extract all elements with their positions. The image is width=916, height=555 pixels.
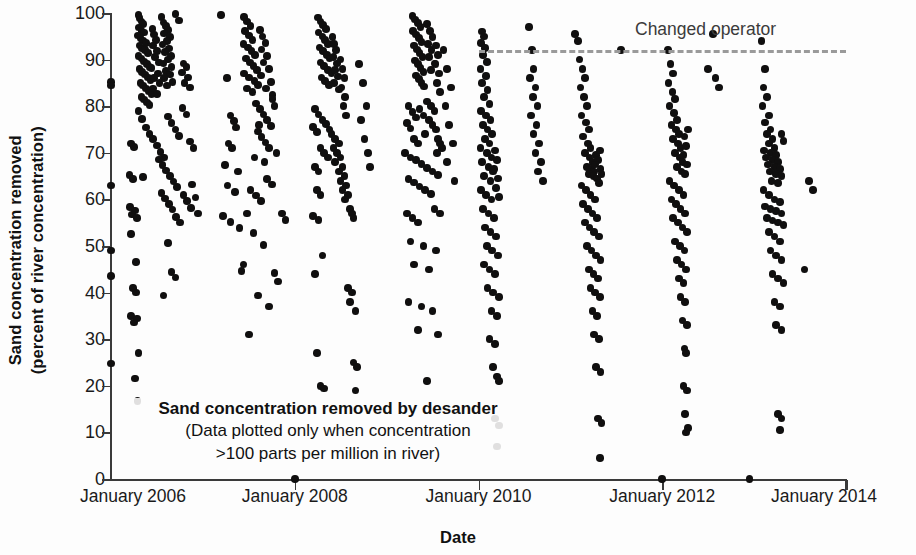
scatter-point xyxy=(774,179,782,187)
scatter-point xyxy=(760,84,768,92)
scatter-point xyxy=(488,130,496,138)
scatter-point xyxy=(778,256,786,264)
scatter-point xyxy=(341,93,349,101)
scatter-point xyxy=(487,116,495,124)
scatter-point xyxy=(595,335,603,343)
scatter-point xyxy=(525,23,533,31)
scatter-point xyxy=(683,228,691,236)
changed-operator-label: Changed operator xyxy=(635,19,776,40)
scatter-point xyxy=(405,298,413,306)
scatter-point xyxy=(683,161,691,169)
scatter-point xyxy=(366,163,374,171)
scatter-point xyxy=(780,279,788,287)
scatter-point xyxy=(352,387,360,395)
scatter-point xyxy=(132,289,140,297)
y-tick-label: 60 xyxy=(61,189,105,210)
scatter-point xyxy=(227,218,235,226)
scatter-point xyxy=(683,387,691,395)
scatter-point xyxy=(534,168,542,176)
scatter-point xyxy=(291,475,299,483)
scatter-point xyxy=(447,84,455,92)
scatter-point xyxy=(680,279,688,287)
scatter-point xyxy=(160,292,168,300)
scatter-point xyxy=(412,114,420,122)
scatter-point xyxy=(245,331,253,339)
scatter-point xyxy=(135,349,143,357)
scatter-point xyxy=(434,331,442,339)
scatter-point xyxy=(596,454,604,462)
scatter-point xyxy=(169,206,177,214)
scatter-point xyxy=(188,181,196,189)
scatter-point xyxy=(780,221,788,229)
scatter-point xyxy=(761,65,769,73)
scatter-point xyxy=(414,219,422,227)
scatter-point xyxy=(594,275,602,283)
scatter-point xyxy=(311,270,319,278)
scatter-point xyxy=(173,183,181,191)
scatter-point xyxy=(682,142,690,150)
scatter-point xyxy=(339,65,347,73)
x-tick-mark xyxy=(479,480,481,490)
scatter-point xyxy=(320,385,328,393)
scatter-point xyxy=(680,151,688,159)
scatter-point xyxy=(593,312,601,320)
scatter-point xyxy=(491,270,499,278)
y-tick-label: 50 xyxy=(61,236,105,257)
y-tick-mark xyxy=(102,13,111,15)
caption-line-3: >100 parts per million in river) xyxy=(118,443,538,465)
scatter-point xyxy=(778,415,786,423)
scatter-point xyxy=(432,60,440,68)
scatter-point xyxy=(257,197,265,205)
scatter-point xyxy=(493,312,501,320)
scatter-point xyxy=(338,84,346,92)
scatter-point xyxy=(681,298,689,306)
scatter-point xyxy=(346,298,354,306)
scatter-point xyxy=(532,84,540,92)
y-tick-label: 70 xyxy=(61,142,105,163)
scatter-point xyxy=(364,149,372,157)
scatter-point xyxy=(221,161,229,169)
scatter-point xyxy=(539,177,547,185)
scatter-point xyxy=(129,175,137,183)
scatter-point xyxy=(681,247,689,255)
caption-line-2: (Data plotted only when concentration xyxy=(118,420,538,442)
scatter-point xyxy=(146,101,154,109)
scatter-point xyxy=(353,363,361,371)
scatter-point xyxy=(107,272,115,280)
scatter-point xyxy=(530,65,538,73)
scatter-point xyxy=(187,204,195,212)
scatter-point xyxy=(763,93,771,101)
scatter-point xyxy=(342,112,350,120)
changed-operator-reference-line xyxy=(479,50,847,53)
scatter-point xyxy=(243,210,251,218)
scatter-point xyxy=(231,188,239,196)
scatter-point xyxy=(130,143,138,151)
y-tick-mark xyxy=(102,106,111,108)
scatter-point xyxy=(107,182,115,190)
scatter-point xyxy=(761,119,769,127)
scatter-point xyxy=(192,194,200,202)
scatter-point xyxy=(313,128,321,136)
scatter-point xyxy=(274,278,282,286)
scatter-point xyxy=(490,214,498,222)
y-tick-label: 10 xyxy=(61,422,105,443)
scatter-point xyxy=(658,475,666,483)
scatter-point xyxy=(680,191,688,199)
scatter-point xyxy=(432,42,440,50)
scatter-point xyxy=(341,74,349,82)
scatter-point xyxy=(319,252,327,260)
scatter-point xyxy=(268,181,276,189)
scatter-point xyxy=(429,307,437,315)
scatter-point xyxy=(232,124,240,132)
scatter-point xyxy=(107,360,115,368)
scatter-point xyxy=(359,79,367,87)
scatter-point xyxy=(219,212,227,220)
y-tick-mark xyxy=(102,60,111,62)
scatter-point xyxy=(236,224,244,232)
scatter-point xyxy=(153,90,161,98)
scatter-point xyxy=(440,46,448,54)
scatter-point xyxy=(580,93,588,101)
scatter-point xyxy=(414,326,422,334)
scatter-point xyxy=(175,132,183,140)
scatter-point xyxy=(176,219,184,227)
